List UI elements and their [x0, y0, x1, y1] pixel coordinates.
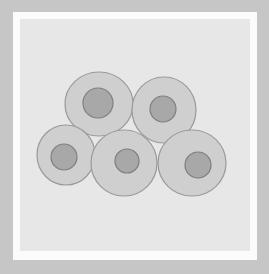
cell-bottom-middle — [91, 130, 157, 196]
cell-bottom-right — [158, 130, 226, 196]
cell-cluster-illustration — [0, 0, 269, 274]
cell-bottom-left — [37, 125, 95, 185]
cell-nucleus — [115, 149, 139, 173]
cell-nucleus — [150, 96, 176, 122]
cell-nucleus — [51, 144, 77, 170]
cell-nucleus — [185, 152, 211, 178]
cell-nucleus — [83, 88, 113, 118]
